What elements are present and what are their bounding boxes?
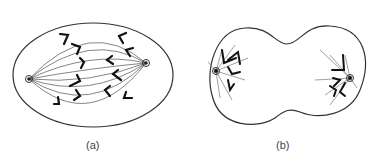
panel-a-cell [13, 23, 173, 127]
spindle-fibers [29, 42, 146, 103]
chromosomes-b-left [222, 50, 240, 90]
panel-b-cell [208, 26, 365, 124]
mitosis-diagram [0, 0, 373, 161]
panel-b-label: (b) [276, 139, 289, 151]
panel-a-label: (a) [86, 139, 99, 151]
